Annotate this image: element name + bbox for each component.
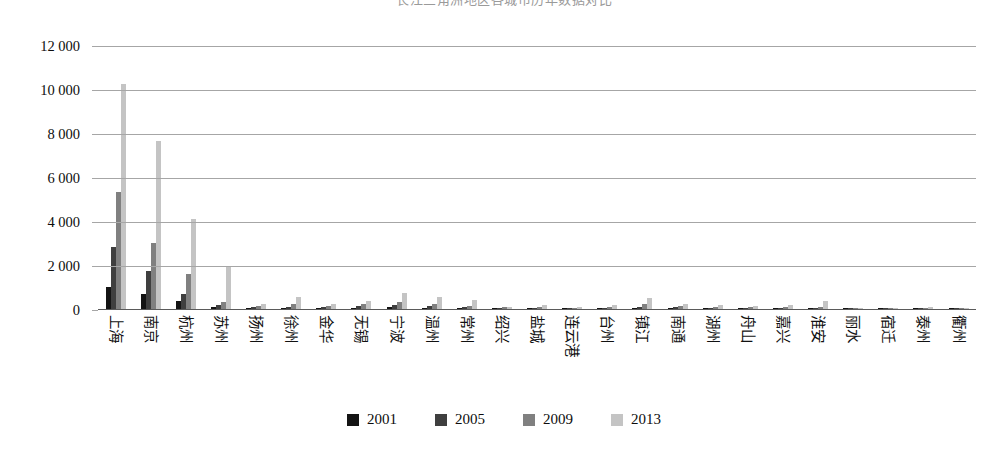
- x-axis-tick-label: 温州: [424, 315, 439, 343]
- legend-swatch-icon: [347, 414, 359, 426]
- x-axis-tick-label: 南通: [670, 315, 685, 343]
- x-axis-tick-label: 淮安: [811, 315, 826, 343]
- legend-item[interactable]: 2009: [523, 412, 573, 427]
- x-axis-labels: 上海南京杭州苏州扬州徐州金华无锡宁波温州常州绍兴盐城连云港台州镇江南通湖州舟山嘉…: [98, 313, 976, 405]
- x-axis-tick-label: 金华: [319, 315, 334, 343]
- gridline: [98, 90, 976, 91]
- bar: [472, 300, 477, 309]
- x-axis-label-cell: 南京: [133, 313, 168, 405]
- x-axis-label-cell: 连云港: [555, 313, 590, 405]
- x-axis-label-cell: 丽水: [836, 313, 871, 405]
- legend-swatch-icon: [611, 414, 623, 426]
- bar: [121, 84, 126, 310]
- x-axis-label-cell: 无锡: [344, 313, 379, 405]
- legend-label: 2001: [367, 412, 397, 427]
- legend-label: 2013: [631, 412, 661, 427]
- x-axis-tick-label: 舟山: [741, 315, 756, 343]
- x-axis-tick-label: 南京: [143, 315, 158, 343]
- bar: [402, 293, 407, 310]
- x-axis-label-cell: 宿迁: [871, 313, 906, 405]
- y-axis-tick: [92, 222, 98, 223]
- bar: [296, 297, 301, 309]
- x-axis-label-cell: 衢州: [941, 313, 976, 405]
- bar-chart: 长江三角洲地区各城市历年数据对比 02 0004 0006 0008 00010…: [0, 0, 1008, 458]
- bar: [823, 301, 828, 309]
- legend-label: 2009: [543, 412, 573, 427]
- x-axis-tick-label: 宿迁: [881, 315, 896, 343]
- x-axis-label-cell: 嘉兴: [765, 313, 800, 405]
- y-axis-tick-label: 4 000: [0, 215, 80, 230]
- gridline: [98, 222, 976, 223]
- bar: [156, 141, 161, 309]
- gridline: [98, 46, 976, 47]
- y-axis-tick-label: 10 000: [0, 83, 80, 98]
- gridline: [98, 134, 976, 135]
- x-axis-label-cell: 盐城: [520, 313, 555, 405]
- x-axis-label-cell: 杭州: [168, 313, 203, 405]
- x-axis-tick-label: 台州: [600, 315, 615, 343]
- y-axis-tick: [92, 90, 98, 91]
- x-axis-label-cell: 宁波: [379, 313, 414, 405]
- x-axis-tick-label: 泰州: [916, 315, 931, 343]
- x-axis-label-cell: 常州: [449, 313, 484, 405]
- x-axis-label-cell: 徐州: [274, 313, 309, 405]
- x-axis-label-cell: 金华: [309, 313, 344, 405]
- axis-baseline: [98, 309, 976, 310]
- x-axis-tick-label: 杭州: [179, 315, 194, 343]
- y-axis-tick: [92, 178, 98, 179]
- bar: [226, 266, 231, 309]
- x-axis-tick-label: 徐州: [284, 315, 299, 343]
- x-axis-tick-label: 宁波: [389, 315, 404, 343]
- x-axis-label-cell: 扬州: [239, 313, 274, 405]
- x-axis-label-cell: 淮安: [801, 313, 836, 405]
- x-axis-label-cell: 台州: [590, 313, 625, 405]
- chart-title-clipped: 长江三角洲地区各城市历年数据对比: [0, 0, 1008, 10]
- gridline: [98, 178, 976, 179]
- x-axis-tick-label: 上海: [108, 315, 123, 343]
- x-axis-tick-label: 苏州: [214, 315, 229, 343]
- y-axis-tick: [92, 46, 98, 47]
- bar: [191, 219, 196, 309]
- legend-item[interactable]: 2005: [435, 412, 485, 427]
- y-axis-labels: 02 0004 0006 0008 00010 00012 000: [0, 46, 88, 310]
- y-axis-tick-label: 8 000: [0, 127, 80, 142]
- legend-item[interactable]: 2001: [347, 412, 397, 427]
- bar: [647, 298, 652, 309]
- chart-legend: 2001200520092013: [0, 412, 1008, 427]
- bar: [366, 301, 371, 309]
- x-axis-label-cell: 南通: [660, 313, 695, 405]
- x-axis-tick-label: 盐城: [530, 315, 545, 343]
- x-axis-label-cell: 泰州: [906, 313, 941, 405]
- legend-swatch-icon: [435, 414, 447, 426]
- legend-swatch-icon: [523, 414, 535, 426]
- x-axis-label-cell: 上海: [98, 313, 133, 405]
- x-axis-tick-label: 扬州: [249, 315, 264, 343]
- y-axis-tick: [92, 134, 98, 135]
- legend-item[interactable]: 2013: [611, 412, 661, 427]
- x-axis-tick-label: 常州: [460, 315, 475, 343]
- x-axis-tick-label: 湖州: [705, 315, 720, 343]
- x-axis-label-cell: 湖州: [695, 313, 730, 405]
- bar: [437, 297, 442, 309]
- y-axis-tick-label: 6 000: [0, 171, 80, 186]
- x-axis-label-cell: 绍兴: [484, 313, 519, 405]
- gridline: [98, 266, 976, 267]
- x-axis-label-cell: 温州: [414, 313, 449, 405]
- x-axis-tick-label: 丽水: [846, 315, 861, 343]
- y-axis-tick: [92, 266, 98, 267]
- y-axis-tick-label: 12 000: [0, 39, 80, 54]
- x-axis-tick-label: 衢州: [951, 315, 966, 343]
- x-axis-tick-label: 镇江: [635, 315, 650, 343]
- x-axis-tick-label: 连云港: [565, 315, 580, 357]
- x-axis-label-cell: 苏州: [203, 313, 238, 405]
- y-axis-tick: [92, 310, 98, 311]
- x-axis-label-cell: 舟山: [730, 313, 765, 405]
- legend-label: 2005: [455, 412, 485, 427]
- y-axis-tick-label: 2 000: [0, 259, 80, 274]
- chart-title: 长江三角洲地区各城市历年数据对比: [0, 0, 1008, 8]
- x-axis-tick-label: 绍兴: [495, 315, 510, 343]
- x-axis-tick-label: 无锡: [354, 315, 369, 343]
- x-axis-tick-label: 嘉兴: [776, 315, 791, 343]
- y-axis-tick-label: 0: [0, 303, 80, 318]
- plot-area: [98, 46, 976, 310]
